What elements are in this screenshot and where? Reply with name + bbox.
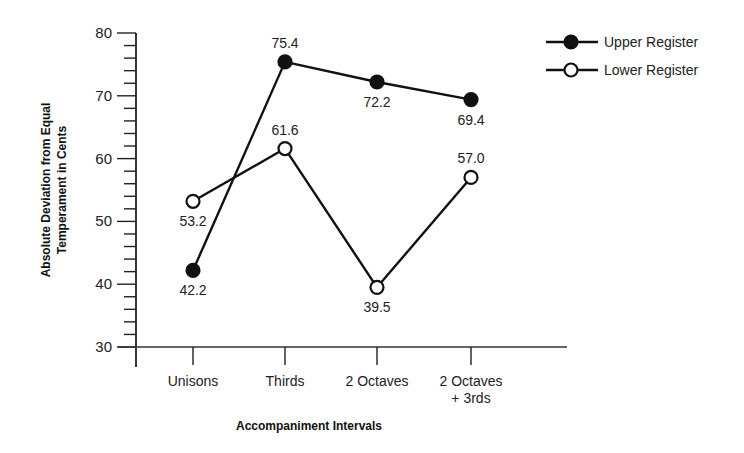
y-axis: 304050607080: [95, 24, 136, 367]
data-label: 61.6: [271, 122, 298, 138]
legend: Upper RegisterLower Register: [546, 34, 698, 78]
data-label: 42.2: [179, 282, 206, 298]
legend-label: Upper Register: [604, 34, 698, 50]
open-circle-marker: [465, 171, 478, 184]
x-category-label: 2 Octaves: [345, 373, 408, 389]
data-label: 39.5: [363, 299, 390, 315]
series-lower-register: 53.261.639.557.0: [179, 122, 484, 316]
line-chart: 304050607080 UnisonsThirds2 Octaves2 Oct…: [0, 0, 744, 453]
series-line: [193, 149, 471, 288]
open-circle-marker: [371, 281, 384, 294]
x-category-label: Unisons: [168, 373, 219, 389]
x-category-label: 2 Octaves: [439, 373, 502, 389]
y-axis-title: Absolute Deviation from EqualTemperament…: [39, 103, 69, 278]
y-axis-title-line: Absolute Deviation from Equal: [39, 103, 53, 278]
series-upper-register: 42.275.472.269.4: [179, 35, 484, 298]
data-label: 72.2: [363, 94, 390, 110]
y-tick-label: 40: [95, 275, 112, 292]
data-label: 57.0: [457, 150, 484, 166]
x-category-label: Thirds: [266, 373, 305, 389]
x-category-label: + 3rds: [451, 390, 490, 406]
filled-circle-marker: [187, 264, 200, 277]
y-tick-label: 60: [95, 150, 112, 167]
data-label: 53.2: [179, 213, 206, 229]
x-axis-title: Accompaniment Intervals: [236, 419, 382, 433]
open-circle-icon: [565, 64, 578, 77]
x-axis: UnisonsThirds2 Octaves2 Octaves+ 3rds: [118, 347, 567, 406]
y-axis-title-line: Temperament in Cents: [55, 125, 69, 254]
filled-circle-marker: [465, 93, 478, 106]
y-tick-label: 50: [95, 212, 112, 229]
legend-item-lower-register: Lower Register: [546, 62, 698, 78]
series-line: [193, 62, 471, 270]
series-layer: 42.275.472.269.453.261.639.557.0: [179, 35, 484, 315]
filled-circle-marker: [279, 55, 292, 68]
legend-label: Lower Register: [604, 62, 698, 78]
data-label: 75.4: [271, 35, 298, 51]
data-label: 69.4: [457, 112, 484, 128]
y-tick-label: 80: [95, 24, 112, 41]
open-circle-marker: [279, 142, 292, 155]
y-tick-label: 30: [95, 338, 112, 355]
filled-circle-marker: [371, 75, 384, 88]
legend-item-upper-register: Upper Register: [546, 34, 698, 50]
y-tick-label: 70: [95, 87, 112, 104]
filled-circle-icon: [565, 36, 578, 49]
open-circle-marker: [187, 195, 200, 208]
